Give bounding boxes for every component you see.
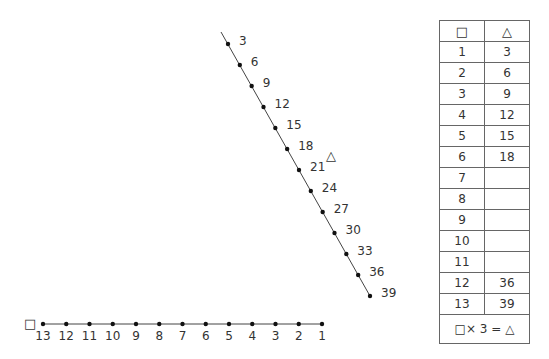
square-value-cell: 5 xyxy=(440,126,485,147)
diagonal-dot-label: 30 xyxy=(346,224,361,236)
diagonal-dot-label: 21 xyxy=(310,161,325,173)
square-value-cell: 10 xyxy=(440,231,485,252)
triangle-value-cell xyxy=(485,210,530,231)
table-row: 11 xyxy=(440,252,530,273)
square-value-cell: 13 xyxy=(440,294,485,315)
horizontal-dot xyxy=(87,322,91,326)
horizontal-dot-label: 9 xyxy=(132,330,140,342)
triangle-value-cell: 18 xyxy=(485,147,530,168)
diagonal-dot xyxy=(273,126,277,130)
horizontal-dot xyxy=(180,322,184,326)
diagonal-dot xyxy=(320,210,324,214)
table-row: 26 xyxy=(440,63,530,84)
square-value-cell: 11 xyxy=(440,252,485,273)
square-value-cell: 7 xyxy=(440,168,485,189)
table-row: 39 xyxy=(440,84,530,105)
triangle-value-cell: 12 xyxy=(485,105,530,126)
table-row: 515 xyxy=(440,126,530,147)
formula-row: □× 3 = △ xyxy=(440,315,530,344)
diagonal-dot-label: 24 xyxy=(322,182,337,194)
diagonal-dot-label: 36 xyxy=(369,266,384,278)
horizontal-dot-label: 2 xyxy=(295,330,303,342)
horizontal-dot-label: 8 xyxy=(155,330,163,342)
square-value-cell: 3 xyxy=(440,84,485,105)
horizontal-dot-label: 7 xyxy=(179,330,187,342)
diagonal-dot xyxy=(261,105,265,109)
table-row: 412 xyxy=(440,105,530,126)
triangle-value-cell: 3 xyxy=(485,42,530,63)
horizontal-dot-label: 3 xyxy=(272,330,280,342)
horizontal-dot-label: 1 xyxy=(318,330,326,342)
triangle-value-cell: 36 xyxy=(485,273,530,294)
table-row: 7 xyxy=(440,168,530,189)
horizontal-dot xyxy=(41,322,45,326)
table-row: 13 xyxy=(440,42,530,63)
horizontal-dot-label: 12 xyxy=(59,330,74,342)
values-table: □ △ 132639412515618789101112361339□× 3 =… xyxy=(439,20,530,344)
table-row: 10 xyxy=(440,231,530,252)
diagonal-dot xyxy=(238,63,242,67)
table-header-row: □ △ xyxy=(440,21,530,42)
diagonal-dot-label: 39 xyxy=(381,287,396,299)
horizontal-dot-label: 11 xyxy=(82,330,97,342)
square-value-cell: 6 xyxy=(440,147,485,168)
square-value-cell: 8 xyxy=(440,189,485,210)
diagonal-dot xyxy=(297,168,301,172)
diagonal-dot-label: 33 xyxy=(357,245,372,257)
table-row: 8 xyxy=(440,189,530,210)
diagonal-dot xyxy=(249,84,253,88)
diagonal-dot xyxy=(344,252,348,256)
square-symbol-label: □ xyxy=(24,318,36,330)
horizontal-dot xyxy=(250,322,254,326)
triangle-value-cell: 9 xyxy=(485,84,530,105)
diagonal-dot-label: 27 xyxy=(334,203,349,215)
table-row: 1339 xyxy=(440,294,530,315)
triangle-value-cell xyxy=(485,252,530,273)
triangle-value-cell xyxy=(485,189,530,210)
square-value-cell: 12 xyxy=(440,273,485,294)
horizontal-dot xyxy=(320,322,324,326)
triangle-value-cell: 6 xyxy=(485,63,530,84)
horizontal-dot-label: 4 xyxy=(248,330,256,342)
triangle-value-cell: 15 xyxy=(485,126,530,147)
table-row: 9 xyxy=(440,210,530,231)
header-triangle: △ xyxy=(485,21,530,42)
diagonal-dot-label: 18 xyxy=(298,140,313,152)
square-value-cell: 1 xyxy=(440,42,485,63)
diagonal-dot-label: 6 xyxy=(251,56,259,68)
diagonal-dot-label: 12 xyxy=(275,98,290,110)
horizontal-dot-label: 13 xyxy=(35,330,50,342)
horizontal-dot-label: 6 xyxy=(202,330,210,342)
diagonal-dot-label: 15 xyxy=(286,119,301,131)
diagonal-dot xyxy=(309,189,313,193)
diagonal-dot xyxy=(226,42,230,46)
triangle-value-cell xyxy=(485,231,530,252)
horizontal-dot xyxy=(134,322,138,326)
horizontal-dot xyxy=(297,322,301,326)
triangle-value-cell: 39 xyxy=(485,294,530,315)
horizontal-dot xyxy=(157,322,161,326)
square-value-cell: 2 xyxy=(440,63,485,84)
horizontal-dot xyxy=(227,322,231,326)
triangle-value-cell xyxy=(485,168,530,189)
diagonal-dot xyxy=(285,147,289,151)
header-square: □ xyxy=(440,21,485,42)
triangle-symbol-label: △ xyxy=(326,150,336,162)
table-row: 1236 xyxy=(440,273,530,294)
diagonal-dot-label: 9 xyxy=(263,77,271,89)
diagonal-dot-label: 3 xyxy=(239,35,247,47)
diagonal-dot xyxy=(332,231,336,235)
horizontal-dot xyxy=(273,322,277,326)
table-row: 618 xyxy=(440,147,530,168)
diagonal-dot xyxy=(356,273,360,277)
horizontal-dot-label: 5 xyxy=(225,330,233,342)
horizontal-dot-label: 10 xyxy=(105,330,120,342)
square-value-cell: 9 xyxy=(440,210,485,231)
diagonal-axis-line xyxy=(221,32,370,296)
horizontal-dot xyxy=(64,322,68,326)
horizontal-dot xyxy=(111,322,115,326)
formula-cell: □× 3 = △ xyxy=(440,315,530,344)
square-value-cell: 4 xyxy=(440,105,485,126)
diagonal-dot xyxy=(368,294,372,298)
horizontal-dot xyxy=(204,322,208,326)
